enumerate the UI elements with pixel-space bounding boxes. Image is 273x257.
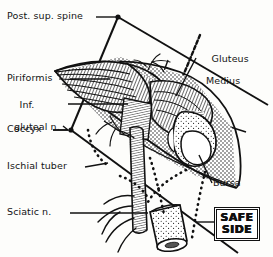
anatomical-figure: Post. sup. spine Piriformis Inf. gluteal…	[0, 0, 273, 257]
label-piriformis: Piriformis	[7, 73, 52, 84]
label-ischial-tuber: Ischial tuber	[7, 161, 67, 172]
label-gluteus-medius: Gluteus Medius	[199, 42, 249, 108]
femur-shaft	[150, 205, 188, 253]
label-gluteus-medius-line2: Medius	[199, 75, 249, 86]
sciatic-nerve	[98, 124, 152, 252]
label-gluteus-medius-line1: Gluteus	[211, 53, 248, 64]
safe-side-badge: SAFE SIDE	[214, 207, 260, 241]
psis-point	[115, 14, 120, 19]
label-coccyx: Coccyx	[7, 124, 42, 135]
safe-side-badge-inner: SAFE SIDE	[216, 209, 258, 239]
label-sciatic-n: Sciatic n.	[7, 207, 51, 218]
label-inf-gluteal-n: Inf. gluteal n.	[7, 88, 60, 154]
safe-side-word-side: SIDE	[222, 224, 252, 236]
label-inf-gluteal-line1: Inf.	[19, 99, 34, 110]
label-bursa: Bursa	[213, 178, 241, 189]
coccyx-point	[68, 127, 73, 132]
leader-ischial	[85, 163, 108, 167]
label-post-sup-spine: Post. sup. spine	[7, 11, 83, 22]
